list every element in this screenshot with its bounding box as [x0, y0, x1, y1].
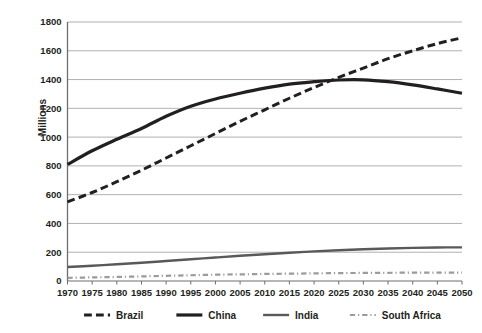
- y-tick-label: 1400: [40, 74, 61, 85]
- x-tick-label: 2035: [377, 287, 399, 298]
- x-tick-label: 2050: [451, 287, 472, 298]
- x-tick-label: 1975: [82, 287, 104, 298]
- x-tick-label: 2025: [328, 287, 350, 298]
- x-tick-label: 2005: [230, 287, 252, 298]
- y-tick-label: 1600: [40, 45, 61, 56]
- legend-label-india: India: [295, 310, 319, 321]
- y-tick-label: 0: [56, 275, 61, 286]
- data-series-group: [68, 38, 463, 278]
- series-line-south-africa: [68, 273, 463, 278]
- x-tick-label: 2040: [402, 287, 423, 298]
- line-chart: Millions 0200400600800100012001400160018…: [0, 0, 482, 333]
- legend-label-brazil: Brazil: [116, 310, 143, 321]
- x-tick-label: 1985: [131, 287, 153, 298]
- x-axis-tick-labels: 1970197519801985199019952000200520102015…: [57, 287, 473, 298]
- series-line-china: [68, 80, 463, 165]
- x-tick-label: 2000: [205, 287, 226, 298]
- chart-plot-area: 020040060080010001200140016001800 197019…: [0, 0, 482, 333]
- y-tick-label: 400: [46, 218, 62, 229]
- legend-label-south-africa: South Africa: [382, 310, 442, 321]
- y-tick-label: 600: [46, 189, 62, 200]
- chart-legend: BrazilChinaIndiaSouth Africa: [84, 310, 441, 321]
- x-tick-label: 2010: [254, 287, 275, 298]
- y-tick-label: 1200: [40, 103, 61, 114]
- y-tick-label: 200: [46, 247, 62, 258]
- y-tick-label: 1800: [40, 16, 61, 27]
- x-tick-label: 1970: [57, 287, 78, 298]
- x-tick-label: 2045: [427, 287, 449, 298]
- x-tick-label: 2030: [353, 287, 374, 298]
- legend-label-china: China: [208, 310, 236, 321]
- y-tick-label: 1000: [40, 132, 61, 143]
- gridlines: [68, 22, 463, 252]
- x-tick-label: 1980: [106, 287, 127, 298]
- x-tick-label: 1995: [180, 287, 202, 298]
- series-line-india: [68, 247, 463, 267]
- y-axis-tick-labels: 020040060080010001200140016001800: [40, 16, 61, 286]
- x-tick-label: 2015: [279, 287, 301, 298]
- series-line-brazil: [68, 38, 463, 202]
- y-tick-label: 800: [46, 160, 62, 171]
- axis-lines: [68, 22, 463, 285]
- x-tick-label: 1990: [156, 287, 177, 298]
- x-tick-label: 2020: [303, 287, 324, 298]
